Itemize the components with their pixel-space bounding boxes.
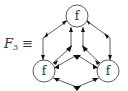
arrowhead <box>108 55 112 60</box>
node-bottom-left: f <box>33 60 55 82</box>
graph-diagram: f f f <box>0 0 128 91</box>
node-bottom-right: f <box>97 60 119 82</box>
arrowhead <box>92 78 98 82</box>
arrowhead <box>104 33 109 39</box>
arrowhead <box>69 27 73 32</box>
arrowhead <box>41 55 45 60</box>
arrowhead <box>73 55 81 60</box>
node-top: f <box>66 5 88 27</box>
arrowhead <box>44 32 48 38</box>
arrowhead <box>73 86 81 91</box>
arrowhead <box>81 27 85 32</box>
